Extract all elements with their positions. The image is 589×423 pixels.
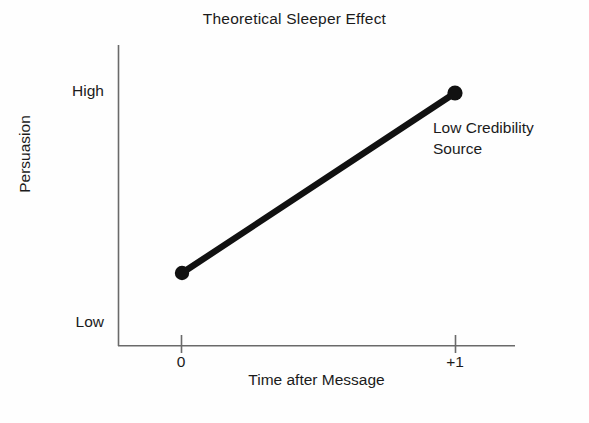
- data-point-marker-t0: [175, 266, 189, 280]
- series-annotation-line-2: Source: [433, 138, 534, 159]
- chart-figure: Theoretical Sleeper Effect High Low 0 +1…: [0, 0, 589, 423]
- x-tick-zero-label: 0: [141, 353, 221, 371]
- series-annotation-low-credibility: Low Credibility Source: [433, 117, 534, 159]
- y-tick-low-label: Low: [0, 313, 104, 331]
- series-annotation-line-1: Low Credibility: [433, 117, 534, 138]
- y-axis-title: Persuasion: [16, 84, 34, 224]
- plot-area: [0, 0, 589, 423]
- data-point-marker-t1: [447, 85, 462, 100]
- y-tick-low: Low: [0, 313, 104, 333]
- series-line-low-credibility-source: [182, 93, 455, 273]
- x-tick-plus-one-label: +1: [415, 353, 495, 371]
- x-axis-title: Time after Message: [118, 371, 515, 389]
